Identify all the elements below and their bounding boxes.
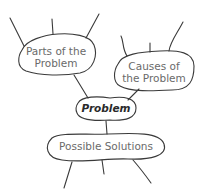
node-problem: Problem <box>75 97 137 119</box>
causes-branch-left <box>121 36 127 56</box>
solutions-branch-mid <box>102 160 104 174</box>
node-parts-of-problem: Parts of the Problem <box>16 40 96 74</box>
solutions-label: Possible Solutions <box>59 140 153 152</box>
parts-branch-mid <box>52 19 53 34</box>
causes-branch-right <box>169 22 183 51</box>
solutions-branch-right <box>133 160 151 183</box>
parts-label-line1: Parts of the <box>26 45 86 57</box>
parts-branch-right <box>86 14 99 38</box>
causes-label-line1: Causes of <box>122 60 186 72</box>
parts-label-line2: Problem <box>26 57 86 69</box>
node-possible-solutions: Possible Solutions <box>48 133 164 159</box>
problem-web-diagram: Parts of the Problem Causes of the Probl… <box>0 0 210 193</box>
node-causes-of-problem: Causes of the Problem <box>113 55 195 89</box>
solutions-branch-left <box>64 162 72 188</box>
problem-label: Problem <box>82 102 131 114</box>
causes-label-line2: the Problem <box>122 72 186 84</box>
parts-to-problem <box>74 75 88 98</box>
